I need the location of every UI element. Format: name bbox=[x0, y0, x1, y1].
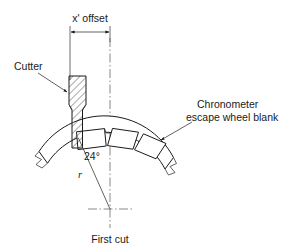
radius-line-group bbox=[78, 138, 110, 209]
wheel-label-line2: escape wheel blank bbox=[186, 111, 279, 123]
radius-line bbox=[78, 138, 110, 209]
wheel-leader bbox=[161, 122, 192, 140]
offset-dimension-label: x' offset bbox=[72, 12, 108, 24]
cutter-leader bbox=[38, 73, 67, 92]
cutter-label: Cutter bbox=[14, 60, 43, 72]
diagram-canvas: x' offset bbox=[0, 0, 289, 252]
tooth-block-2 bbox=[108, 128, 139, 149]
offset-dimension-group bbox=[70, 26, 110, 80]
first-cut-label: First cut bbox=[91, 233, 128, 245]
technical-diagram-figure: x' offset bbox=[0, 0, 289, 252]
angle-label: 24° bbox=[84, 150, 100, 162]
wheel-label-line1: Chronometer bbox=[197, 98, 259, 110]
radius-label: r bbox=[78, 169, 83, 180]
